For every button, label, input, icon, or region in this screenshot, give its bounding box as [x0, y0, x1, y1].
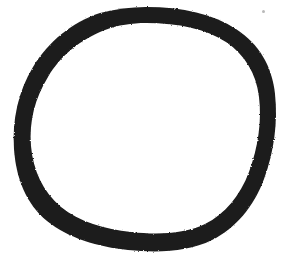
ink-speck	[262, 10, 265, 13]
sketch-canvas	[0, 0, 289, 263]
circle-ring-fill	[0, 0, 289, 263]
hand-drawn-circle-svg	[0, 0, 289, 263]
circle-ink-stroke	[0, 0, 289, 263]
